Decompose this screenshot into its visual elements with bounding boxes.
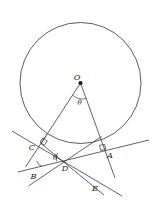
geometry-canvas: O θ C A B D E θ [0, 0, 156, 206]
angle-label-theta-O: θ [77, 99, 82, 107]
angle-arc-B [37, 161, 42, 166]
radius-segment-OA [81, 83, 106, 151]
tangent-line-at-A [18, 140, 149, 172]
radius-segment-OC [41, 83, 81, 144]
point-label-D: D [61, 163, 69, 173]
point-label-E: E [91, 183, 98, 193]
line-B-to-E-steep [29, 137, 102, 187]
right-angle-mark-A [100, 144, 106, 150]
center-point-dot-O [78, 81, 82, 85]
geometry-figure: O θ C A B D E θ [0, 0, 156, 206]
point-label-C: C [29, 142, 36, 152]
point-label-A: A [106, 150, 113, 160]
point-label-O: O [74, 72, 81, 82]
point-label-B: B [29, 171, 36, 181]
line-OA-extended-lower [97, 151, 105, 182]
